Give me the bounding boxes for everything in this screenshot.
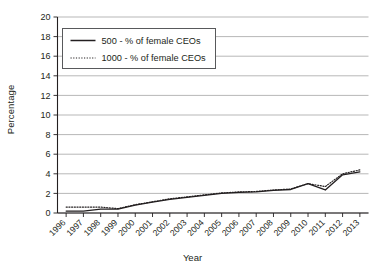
x-tick-label: 2008	[254, 217, 275, 238]
y-tick-label: 0	[45, 208, 50, 218]
x-tick-label: 1998	[82, 217, 103, 238]
x-tick-label: 2010	[289, 217, 310, 238]
x-tick-label: 2012	[323, 217, 344, 238]
y-axis-title: Percentage	[0, 0, 22, 218]
y-tick-label: 18	[40, 32, 50, 42]
x-tick-label: 1996	[47, 217, 68, 238]
x-tick-label: 2007	[237, 217, 258, 238]
line-chart-plot: 02468101214161820 1996199719981999200020…	[0, 0, 385, 279]
x-tick-label: 1999	[99, 217, 120, 238]
x-tick-label: 2001	[133, 217, 154, 238]
chart-legend: 500 - % of female CEOs1000 - % of female…	[63, 29, 216, 69]
data-series-group	[66, 170, 360, 211]
x-tick-label: 2005	[202, 217, 223, 238]
y-tick-label: 4	[45, 169, 50, 179]
x-tick-label: 2002	[151, 217, 172, 238]
x-tick-label: 2000	[116, 217, 137, 238]
chart-container: Percentage 02468101214161820 19961997199…	[0, 0, 385, 279]
x-tick-label: 2003	[168, 217, 189, 238]
x-tick-label: 2004	[185, 217, 206, 238]
y-tick-label: 6	[45, 149, 50, 159]
x-tick-label: 2006	[220, 217, 241, 238]
x-axis-title: Year	[0, 252, 385, 263]
series-line-1	[66, 172, 360, 211]
y-tick-label: 12	[40, 91, 50, 101]
x-tick-label: 1997	[64, 217, 85, 238]
x-tick-label: 2009	[272, 217, 293, 238]
legend-label-1: 500 - % of female CEOs	[102, 36, 201, 46]
x-tick-label: 2011	[307, 217, 327, 237]
y-axis-title-text: Percentage	[6, 84, 17, 134]
series-line-2	[66, 170, 360, 209]
y-tick-label: 14	[40, 71, 50, 81]
x-axis-ticks-group: 1996199719981999200020012002200320042005…	[47, 213, 361, 238]
y-tick-label: 10	[40, 110, 50, 120]
x-tick-label: 2013	[341, 217, 362, 238]
y-tick-label: 20	[40, 12, 50, 22]
y-tick-label: 8	[45, 130, 50, 140]
legend-label-2: 1000 - % of female CEOs	[102, 53, 207, 63]
y-tick-label: 16	[40, 51, 50, 61]
y-axis-ticks-group: 02468101214161820	[40, 12, 57, 218]
y-tick-label: 2	[45, 189, 50, 199]
